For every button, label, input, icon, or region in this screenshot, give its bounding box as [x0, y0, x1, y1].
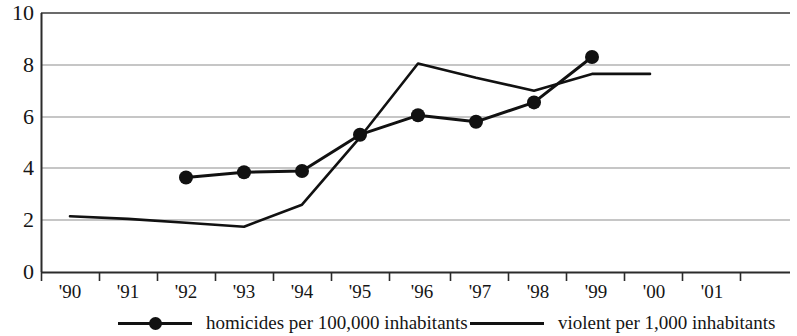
x-tick-label-01: '01: [683, 281, 741, 303]
x-tick-label-99: '99: [567, 281, 625, 303]
x-tick-label-92: '92: [157, 281, 215, 303]
legend-label-violent: violent per 1,000 inhabitants: [558, 311, 775, 335]
x-tick-label-00: '00: [625, 281, 683, 303]
chart-legend: homicides per 100,000 inhabitants violen…: [0, 309, 797, 336]
data-point-marker: [411, 108, 425, 122]
legend-marker-line-dot-icon: [118, 316, 192, 330]
axis-lines: [41, 13, 790, 273]
legend-marker-line-icon: [470, 316, 544, 330]
legend-item-violent: violent per 1,000 inhabitants: [470, 309, 775, 336]
x-tick-label-95: '95: [331, 281, 389, 303]
series-line-violent: [70, 64, 650, 227]
x-tick-label-91: '91: [99, 281, 157, 303]
plot-area: [0, 0, 797, 300]
data-point-marker: [237, 165, 251, 179]
data-point-marker: [527, 95, 541, 109]
data-point-marker: [469, 115, 483, 129]
data-point-marker: [295, 164, 309, 178]
x-tick-label-94: '94: [273, 281, 331, 303]
x-tick-label-96: '96: [393, 281, 451, 303]
legend-label-homicides: homicides per 100,000 inhabitants: [206, 311, 468, 335]
x-axis: '90 '91 '92 '93 '94 '95 '96 '97 '98 '99 …: [41, 281, 741, 309]
legend-item-homicides: homicides per 100,000 inhabitants: [118, 309, 468, 336]
data-point-marker: [179, 171, 193, 185]
x-tick-label-97: '97: [451, 281, 509, 303]
x-tick-label-93: '93: [215, 281, 273, 303]
line-chart: 10 8 6 4 2 0: [0, 0, 797, 336]
x-tick-label-98: '98: [509, 281, 567, 303]
data-point-marker: [353, 128, 367, 142]
data-point-marker: [585, 50, 599, 64]
x-tick-label-90: '90: [41, 281, 99, 303]
